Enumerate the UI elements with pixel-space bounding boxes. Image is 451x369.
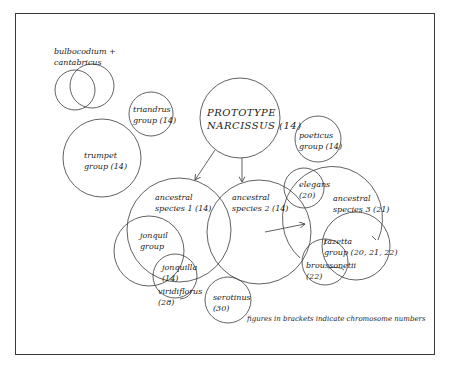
trumpet-label: trumpet group (14) <box>84 150 127 172</box>
ancestral3-label: ancestral species 3 (21) <box>333 193 389 215</box>
ancestral3-label-line2: species 3 (21) <box>333 204 389 215</box>
broussonetii-label-line1: broussonetii <box>306 260 356 271</box>
serotinus-label: serotinus (30) <box>213 292 251 314</box>
jonquilla-label-line1: jonquilla <box>162 262 197 273</box>
broussonetii-label-line2: (22) <box>306 271 356 282</box>
jonquil-label: jonquil group <box>140 230 168 252</box>
bulbocodium-label-line2: cantabricus <box>54 57 116 68</box>
viridiflorus-label-line2: (28) <box>158 297 202 308</box>
arrow-prototype-to-ancestral1 <box>195 150 215 180</box>
bulbocodium-label-line1: bulbocodium + <box>54 46 116 57</box>
tazetta-label-line2: group (20, 21, 22) <box>324 247 398 258</box>
jonquilla-label: jonquilla (14) <box>162 262 197 284</box>
tazetta-label: tazetta group (20, 21, 22) <box>324 236 398 258</box>
elegans-label: elegans (20) <box>299 179 330 201</box>
trumpet-label-line1: trumpet <box>84 150 127 161</box>
triandrus-label-line1: triandrus <box>133 104 176 115</box>
cantabricus-circle <box>70 64 114 108</box>
elegans-label-line1: elegans <box>299 179 330 190</box>
poeticus-label: poeticus group (14) <box>299 130 342 152</box>
ancestral3-label-line1: ancestral <box>333 193 389 204</box>
trumpet-label-line2: group (14) <box>84 161 127 172</box>
poeticus-label-line2: group (14) <box>299 141 342 152</box>
triandrus-label-line2: group (14) <box>133 115 176 126</box>
chromosome-note: figures in brackets indicate chromosome … <box>247 314 425 325</box>
prototype-label: PROTOTYPE NARCISSUS (14) <box>207 106 302 132</box>
jonquil-label-line2: group <box>140 241 168 252</box>
bulbocodium-label: bulbocodium + cantabricus <box>54 46 116 68</box>
tazetta-label-line1: tazetta <box>324 236 398 247</box>
ancestral2-label-line2: species 2 (14) <box>232 203 288 214</box>
prototype-label-line2: NARCISSUS (14) <box>207 119 302 132</box>
jonquil-label-line1: jonquil <box>140 230 168 241</box>
triandrus-label: triandrus group (14) <box>133 104 176 126</box>
prototype-label-line1: PROTOTYPE <box>207 106 302 119</box>
viridiflorus-label: viridiflorus (28) <box>158 286 202 308</box>
elegans-label-line2: (20) <box>299 190 330 201</box>
ancestral2-label-line1: ancestral <box>232 192 288 203</box>
broussonetii-label: broussonetii (22) <box>306 260 356 282</box>
ancestral2-label: ancestral species 2 (14) <box>232 192 288 214</box>
ancestral1-label-line2: species 1 (14) <box>155 203 211 214</box>
bulbocodium-circle <box>55 70 95 110</box>
poeticus-label-line1: poeticus <box>299 130 342 141</box>
serotinus-label-line2: (30) <box>213 303 251 314</box>
ancestral1-label: ancestral species 1 (14) <box>155 192 211 214</box>
viridiflorus-label-line1: viridiflorus <box>158 286 202 297</box>
jonquilla-label-line2: (14) <box>162 273 197 284</box>
ancestral1-label-line1: ancestral <box>155 192 211 203</box>
serotinus-label-line1: serotinus <box>213 292 251 303</box>
arrow-ancestral2-to-ancestral3 <box>265 224 305 232</box>
